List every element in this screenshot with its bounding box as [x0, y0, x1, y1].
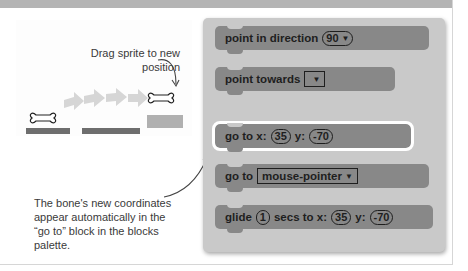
- ground-platform: [26, 128, 70, 134]
- block-go-to-xy[interactable]: go to x: 35 y: -70: [215, 124, 411, 148]
- towards-dropdown[interactable]: ▼: [304, 71, 325, 87]
- block-go-to[interactable]: go to mouse-pointer ▼: [215, 164, 429, 188]
- bone-icon: [30, 113, 55, 122]
- bone-icon: [148, 93, 173, 102]
- block-label: point towards: [225, 73, 300, 85]
- block-label: y:: [295, 130, 305, 142]
- x-input[interactable]: 35: [331, 210, 351, 225]
- chevron-down-icon: ▼: [312, 75, 320, 84]
- go-to-target-dropdown[interactable]: mouse-pointer ▼: [257, 168, 358, 184]
- block-glide[interactable]: glide 1 secs to x: 35 y: -70: [215, 205, 433, 229]
- chevron-down-icon: ▼: [342, 34, 350, 43]
- ground-platform: [82, 128, 140, 134]
- direction-input[interactable]: 90 ▼: [322, 31, 353, 46]
- block-label: y:: [355, 211, 365, 223]
- block-label: point in direction: [225, 32, 318, 44]
- x-input[interactable]: 35: [271, 129, 291, 144]
- y-input[interactable]: -70: [309, 129, 333, 144]
- block-label: go to: [225, 170, 253, 182]
- block-label: secs to x:: [274, 211, 327, 223]
- motion-arrow-icon: [64, 88, 148, 110]
- block-point-towards[interactable]: point towards ▼: [215, 67, 395, 91]
- block-label: go to x:: [225, 130, 267, 142]
- chevron-down-icon: ▼: [345, 172, 353, 181]
- block-label: glide: [225, 211, 252, 223]
- ground-platform-target: [147, 115, 183, 128]
- y-input[interactable]: -70: [370, 210, 394, 225]
- secs-input[interactable]: 1: [256, 210, 270, 225]
- drag-annotation: Drag sprite to new position: [90, 46, 180, 74]
- coordinates-annotation: The bone's new coordinates appear automa…: [34, 196, 184, 252]
- block-point-in-direction[interactable]: point in direction 90 ▼: [215, 26, 429, 50]
